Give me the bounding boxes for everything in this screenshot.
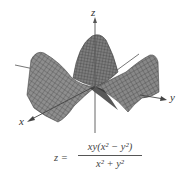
equation-denominator: x² + y² [78,157,142,171]
equation-fraction: xy(x² − y²) x² + y² [78,140,142,171]
z-axis-label: z [91,6,95,18]
fraction-bar [78,155,142,156]
equation-lhs: z = [54,152,68,163]
equation-caption: z = xy(x² − y²) x² + y² [38,140,158,176]
surface-plot [0,0,187,135]
x-axis-arrowhead [27,116,35,122]
equation-numerator: xy(x² − y²) [78,140,142,154]
x-axis-label: x [19,115,24,127]
y-axis-arrowhead [160,96,167,101]
y-axis-label: y [170,91,175,103]
